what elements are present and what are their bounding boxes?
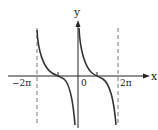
x-axis-label: x [151,70,158,83]
y-axis-arrow-icon [76,20,81,27]
tick-label-zero: 0 [81,78,87,88]
function-graph: x y −2π 0 2π [0,0,158,130]
x-axis-arrow-icon [143,74,150,79]
tick-label-two-pi: 2π [120,78,132,88]
curve-branch-left [37,30,75,125]
y-axis-label: y [73,6,81,19]
tick-label-neg-two-pi: −2π [12,78,31,88]
